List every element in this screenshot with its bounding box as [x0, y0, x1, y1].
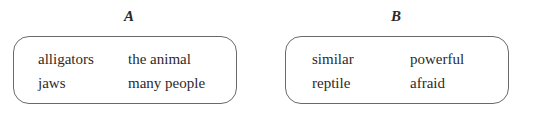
word: powerful [410, 50, 464, 68]
group-a-label: A [124, 8, 134, 25]
word: the animal [128, 50, 191, 68]
word: alligators [38, 50, 94, 68]
group-b-box: similar powerful reptile afraid [285, 36, 509, 104]
group-b-label: B [391, 8, 401, 25]
word: jaws [38, 74, 66, 92]
word: afraid [410, 74, 445, 92]
word: many people [128, 74, 205, 92]
word: similar [312, 50, 354, 68]
word: reptile [312, 74, 350, 92]
group-a-box: alligators the animal jaws many people [13, 36, 237, 104]
